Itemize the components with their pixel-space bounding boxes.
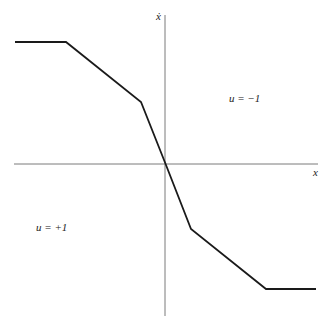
- y-axis-label: ẋ: [156, 10, 161, 22]
- x-axis-label: x: [313, 166, 318, 178]
- region-label-u-minus-1: u = −1: [229, 92, 260, 104]
- phase-plane-plot: [0, 0, 329, 328]
- region-label-u-plus-1: u = +1: [36, 221, 67, 233]
